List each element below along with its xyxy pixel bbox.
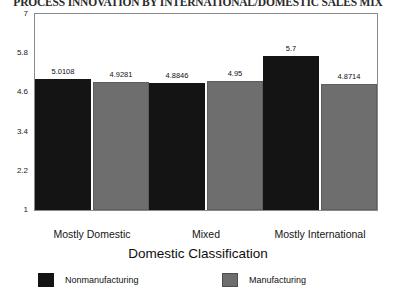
y-axis-tick-label: 1 bbox=[24, 206, 28, 214]
chart-title: PROCESS INNOVATION BY INTERNATIONAL/DOME… bbox=[0, 0, 396, 8]
bars-layer: 5.01084.92814.88464.955.74.8714 bbox=[35, 14, 377, 210]
y-axis-tick-label: 2.2 bbox=[17, 167, 28, 175]
bar-value-label: 4.9281 bbox=[91, 71, 151, 79]
legend-entry[interactable]: Manufacturing bbox=[222, 272, 306, 288]
y-axis-tick-label: 5.8 bbox=[17, 49, 28, 57]
y-axis-tick-label: 7 bbox=[24, 10, 28, 18]
y-axis-tick-label: 3.4 bbox=[17, 128, 28, 136]
legend-label: Manufacturing bbox=[249, 273, 306, 287]
legend-entry[interactable]: Nonmanufacturing bbox=[38, 272, 139, 288]
bar[interactable] bbox=[93, 82, 149, 210]
bar[interactable] bbox=[321, 84, 377, 210]
bar-group: 5.74.8714 bbox=[263, 14, 377, 210]
bar[interactable] bbox=[35, 79, 91, 210]
y-axis-tick-label: 4.6 bbox=[17, 88, 28, 96]
x-axis-category-label: Mostly International bbox=[255, 228, 385, 241]
legend-color-swatch bbox=[222, 273, 238, 287]
bar-value-label: 4.95 bbox=[205, 70, 265, 78]
bar[interactable] bbox=[263, 56, 319, 210]
chart-legend: NonmanufacturingManufacturing bbox=[0, 272, 396, 294]
x-axis-category-label: Mostly Domestic bbox=[27, 228, 157, 241]
x-axis-category-labels: Mostly DomesticMixedMostly International bbox=[35, 228, 377, 242]
bar[interactable] bbox=[149, 83, 205, 210]
bar[interactable] bbox=[207, 81, 263, 210]
bar-value-label: 4.8846 bbox=[147, 72, 207, 80]
bar-group: 4.88464.95 bbox=[149, 14, 263, 210]
bar-value-label: 5.0108 bbox=[33, 68, 93, 76]
x-axis-category-label: Mixed bbox=[141, 228, 271, 241]
bar-value-label: 4.8714 bbox=[319, 73, 379, 81]
legend-color-swatch bbox=[38, 273, 54, 287]
legend-label: Nonmanufacturing bbox=[65, 273, 139, 287]
bar-value-label: 5.7 bbox=[261, 45, 321, 53]
x-axis-title: Domestic Classification bbox=[0, 245, 396, 263]
bar-group: 5.01084.9281 bbox=[35, 14, 149, 210]
y-axis: 75.84.63.42.21 bbox=[0, 13, 32, 211]
